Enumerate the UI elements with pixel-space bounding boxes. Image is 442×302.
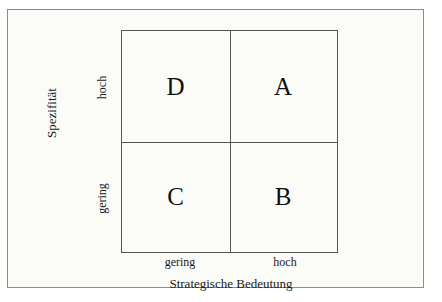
quadrant-label-d: D <box>166 74 185 99</box>
y-axis-title: Spezifität <box>44 63 60 163</box>
quadrant-bottom-left: C <box>122 142 230 253</box>
quadrant-label-b: B <box>275 184 292 209</box>
quadrant-top-left: D <box>122 31 230 142</box>
y-axis-tick-high: hoch <box>95 65 110 111</box>
quadrant-label-c: C <box>167 184 184 209</box>
image-frame: Spezifität hoch gering D A C B gering ho… <box>7 9 424 288</box>
y-axis-tick-low: gering <box>95 173 110 225</box>
diagram-page: Spezifität hoch gering D A C B gering ho… <box>0 0 442 302</box>
x-axis-title: Strategische Bedeutung <box>131 276 331 292</box>
quadrant-matrix: D A C B <box>121 30 338 253</box>
x-axis-tick-low: gering <box>148 255 212 270</box>
quadrant-top-right: A <box>230 31 338 142</box>
x-axis-tick-high: hoch <box>256 255 314 270</box>
quadrant-label-a: A <box>274 74 293 99</box>
quadrant-bottom-right: B <box>230 142 338 253</box>
